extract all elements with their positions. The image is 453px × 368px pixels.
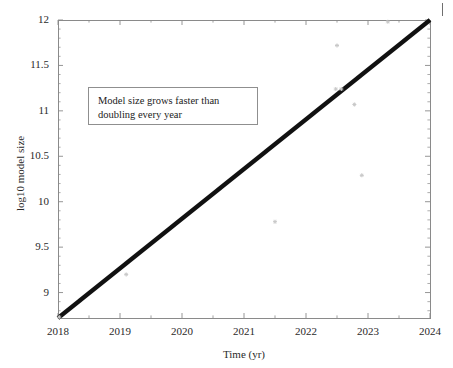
x-axis-tick-label: 2023 bbox=[343, 326, 393, 337]
scatter-series bbox=[57, 20, 390, 319]
x-axis-tick-label: 2021 bbox=[219, 326, 269, 337]
y-axis-tick-label: 9 bbox=[0, 287, 49, 298]
annotation-line-1: Model size grows faster than bbox=[98, 94, 249, 108]
annotation-textbox: Model size grows faster thandoubling eve… bbox=[88, 87, 258, 125]
data-point bbox=[334, 87, 338, 91]
x-axis-tick-label: 2019 bbox=[95, 326, 145, 337]
figure-canvas: 99.51010.51111.5122018201920202021202220… bbox=[0, 0, 453, 368]
x-axis-tick-label: 2020 bbox=[157, 326, 207, 337]
y-axis-title: log10 model size bbox=[14, 136, 26, 211]
data-point bbox=[124, 272, 128, 276]
y-axis-tick-label: 9.5 bbox=[0, 241, 49, 252]
data-point bbox=[360, 173, 364, 177]
data-point bbox=[386, 20, 390, 24]
annotation-line-2: doubling every year bbox=[98, 108, 249, 122]
x-axis-tick-label: 2018 bbox=[33, 326, 83, 337]
data-point bbox=[352, 102, 356, 106]
trend-line-series bbox=[58, 20, 430, 318]
data-point bbox=[339, 87, 343, 91]
data-point bbox=[335, 43, 339, 47]
chart-svg bbox=[0, 0, 453, 368]
y-axis-tick-label: 12 bbox=[0, 14, 49, 25]
data-point bbox=[57, 315, 61, 319]
y-axis-tick-label: 11 bbox=[0, 105, 49, 116]
data-point bbox=[273, 220, 277, 224]
y-axis-tick-label: 11.5 bbox=[0, 59, 49, 70]
x-axis-title: Time (yr) bbox=[164, 348, 324, 360]
x-axis-tick-label: 2022 bbox=[281, 326, 331, 337]
x-axis-tick-label: 2024 bbox=[405, 326, 453, 337]
top-right-tick-artifact-icon bbox=[442, 3, 443, 16]
